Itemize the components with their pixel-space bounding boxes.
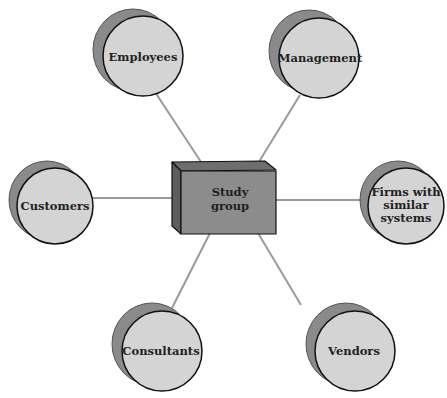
connector-consultants [172,233,210,308]
box-left-face [172,162,181,234]
label-firms-line3: systems [371,212,440,225]
label-study-group-line1: Study [211,185,249,199]
connector-management [257,95,300,165]
connector-vendors [258,233,301,305]
box-top-face [172,161,276,171]
label-vendors-line1: Vendors [328,345,380,358]
label-employees: Employees [109,51,178,64]
label-consultants-line1: Consultants [122,345,199,358]
label-employees-line1: Employees [109,51,178,64]
label-study-group-line2: group [211,199,249,213]
label-study-group: Study group [211,185,249,213]
label-management-line1: Management [278,52,363,65]
label-consultants: Consultants [122,345,199,358]
label-firms: Firms with similar systems [371,186,440,225]
label-vendors: Vendors [328,345,380,358]
label-management: Management [278,52,363,65]
label-customers-line1: Customers [21,200,90,213]
connector-employees [155,92,205,168]
label-customers: Customers [21,200,90,213]
